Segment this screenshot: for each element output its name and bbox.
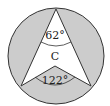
geometry-diagram: 62° C 122° bbox=[0, 0, 110, 106]
central-angle-label: 122° bbox=[42, 74, 69, 87]
center-label: C bbox=[51, 50, 59, 63]
inscribed-angle-label: 62° bbox=[45, 29, 65, 42]
diagram-canvas: 62° C 122° bbox=[0, 0, 110, 106]
